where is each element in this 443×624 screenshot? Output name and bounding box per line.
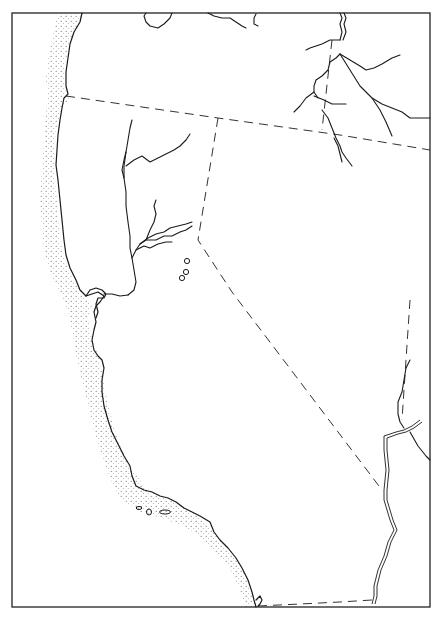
ocean-stipple [40,13,254,607]
klamath-tributary [208,13,246,28]
mexico-border [258,600,372,606]
klamath-tributary-2 [254,14,258,26]
american-river [140,222,192,244]
oregon-border [66,96,430,150]
pit-river [126,134,190,166]
outline-map [0,0,443,624]
snake-branch-west [306,40,340,50]
san-francisco-bay [86,288,128,318]
lake-1 [184,258,189,263]
humboldt-tributary [294,92,314,112]
humboldt-tributary-2 [314,96,346,104]
snake-river-upper-2 [343,13,346,40]
klamath-river [144,13,172,28]
sacramento-river [124,120,136,295]
quinn-river [322,110,352,166]
lake-3 [179,275,184,280]
bruneau-river [340,54,430,118]
tijuana-estuary [256,596,262,606]
lake-2 [183,269,188,274]
california-nevada-border [198,118,382,490]
nevada-arizona-border-solid [410,432,430,460]
nevada-east-border [322,40,410,420]
snake-river-upper [340,13,342,40]
owyhee-river [314,54,340,98]
feather-river [132,200,156,258]
colorado-river-east-bank [375,422,422,604]
